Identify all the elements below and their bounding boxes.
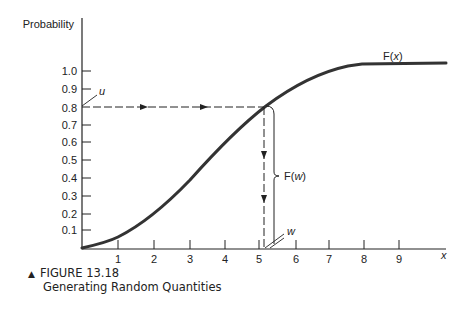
x-ticks	[118, 240, 399, 249]
svg-text:9: 9	[396, 253, 402, 265]
y-tick-labels: 1.0 0.9 0.8 0.7 0.6 0.5 0.4 0.3 0.2 0.1	[62, 65, 77, 236]
u-leader	[82, 95, 97, 106]
x-axis-label: x	[440, 249, 447, 261]
svg-text:2: 2	[151, 253, 157, 265]
svg-text:4: 4	[222, 253, 228, 265]
y-ticks	[82, 71, 91, 230]
svg-text:5: 5	[256, 253, 262, 265]
svg-text:0.1: 0.1	[62, 224, 77, 236]
svg-text:0.7: 0.7	[62, 119, 77, 131]
svg-text:0.5: 0.5	[62, 154, 77, 166]
brace-icon	[266, 106, 279, 244]
figure-title: Generating Random Quantities	[43, 280, 222, 294]
svg-text:0.3: 0.3	[62, 190, 77, 202]
svg-text:0.4: 0.4	[62, 172, 77, 184]
figure-number: FIGURE 13.18	[40, 266, 119, 280]
u-label: u	[99, 85, 105, 97]
svg-text:8: 8	[361, 253, 367, 265]
caption-marker-icon: ▲	[28, 269, 35, 279]
arrow-down-icon	[261, 151, 267, 159]
arrow-down-icon	[261, 195, 267, 203]
svg-text:3: 3	[187, 253, 193, 265]
y-axis-label: Probability	[23, 18, 75, 30]
x-tick-labels: 1 2 3 4 5 6 7 8 9	[115, 253, 402, 265]
svg-text:0.2: 0.2	[62, 208, 77, 220]
svg-text:0.9: 0.9	[62, 83, 77, 95]
arrow-right-icon	[140, 104, 148, 110]
cdf-chart: Probability x 1.0 0.9 0.8 0.7 0.6 0.5 0.…	[0, 0, 473, 311]
w-label: w	[287, 225, 296, 237]
svg-text:1: 1	[115, 253, 121, 265]
arrow-right-icon	[200, 104, 208, 110]
svg-text:1.0: 1.0	[62, 65, 77, 77]
svg-text:0.8: 0.8	[62, 102, 77, 114]
curve-label: F(x)	[383, 50, 403, 62]
brace-label: F(w)	[284, 170, 306, 182]
figure-caption: ▲FIGURE 13.18	[28, 266, 119, 281]
svg-text:7: 7	[326, 253, 332, 265]
svg-text:6: 6	[293, 253, 299, 265]
svg-text:0.6: 0.6	[62, 136, 77, 148]
